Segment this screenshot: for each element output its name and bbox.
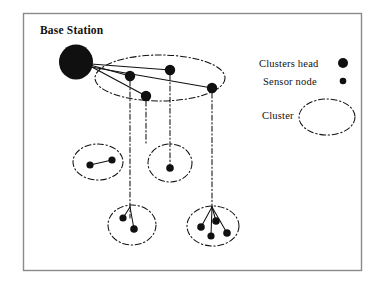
- sensor-node: [223, 229, 231, 237]
- sensor-node: [207, 232, 214, 239]
- figure-background: [0, 0, 382, 285]
- network-diagram: [0, 0, 382, 285]
- base-station-node: [59, 45, 93, 80]
- legend-clusters-head-label: Clusters head: [259, 58, 318, 69]
- figure-root: Base Station Clusters head Sensor node C…: [0, 0, 382, 285]
- sensor-node: [119, 214, 126, 221]
- legend-sensor-node-icon: [340, 78, 347, 85]
- cluster-head-node: [207, 83, 217, 93]
- sensor-node: [166, 164, 174, 172]
- legend-cluster-label: Cluster: [262, 110, 294, 121]
- legend-clusters-head-icon: [338, 58, 348, 68]
- cluster-head-node: [165, 65, 175, 75]
- sensor-node: [86, 161, 93, 168]
- sensor-node: [130, 225, 138, 233]
- sensor-node: [197, 223, 205, 231]
- cluster-head-node: [125, 71, 135, 81]
- cluster-head-node: [141, 91, 151, 101]
- base-station-label: Base Station: [40, 24, 103, 36]
- sensor-node: [212, 217, 220, 225]
- sensor-node: [108, 156, 115, 163]
- legend-sensor-node-label: Sensor node: [263, 76, 317, 87]
